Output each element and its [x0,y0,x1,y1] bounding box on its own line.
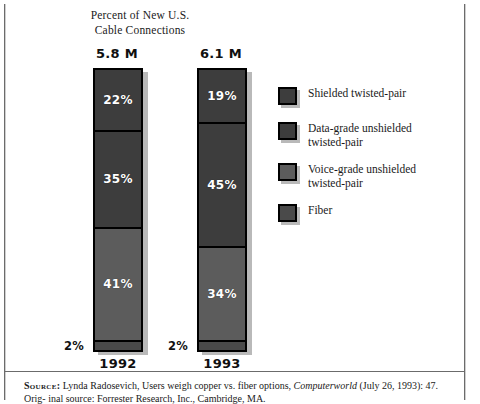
legend-label-line-2: twisted-pair [308,135,412,149]
legend-label-line-1: Voice-grade unshielded [308,163,416,175]
source-text-before: Lynda Radosevich, Users weigh copper vs.… [60,380,293,391]
segment-label: 22% [103,93,133,107]
segment-label: 45% [207,178,237,192]
page-rule-bottom [4,371,465,372]
legend-label: Fiber [304,203,332,217]
source-publication: Computerworld [294,380,357,391]
segment-data-grade-unshielded-1992[interactable]: 35% [95,130,141,227]
legend-label: Voice-grade unshielded twisted-pair [304,162,416,190]
chart-legend: Shielded twisted-pair Data-grade unshiel… [278,86,464,238]
source-note: Source: Lynda Radosevich, Users weigh co… [24,379,456,404]
legend-item-fiber[interactable]: Fiber [278,203,464,225]
segment-label: 19% [207,89,237,103]
segment-label-fiber: 2% [64,339,84,353]
bar-year-1993: 1993 [192,356,252,371]
segment-data-grade-unshielded-1993[interactable]: 45% [199,122,245,246]
segment-voice-grade-unshielded-1993[interactable]: 34% [199,246,245,340]
chart-title: Percent of New U.S. Cable Connections [6,8,274,38]
figure-page: Percent of New U.S. Cable Connections 5.… [0,0,480,404]
legend-item-shielded-twisted-pair[interactable]: Shielded twisted-pair [278,86,464,108]
legend-label: Data-grade unshielded twisted-pair [304,121,412,149]
page-rule-right [464,4,465,400]
stacked-bar-1992[interactable]: 22% 35% 41% 2% [93,68,143,352]
legend-swatch-icon [278,204,304,225]
chart-title-line-2: Cable Connections [6,23,274,38]
legend-swatch-icon [278,163,304,184]
legend-swatch-icon [278,87,304,108]
segment-label-fiber: 2% [168,339,188,353]
chart-figure: Percent of New U.S. Cable Connections 5.… [6,0,464,371]
source-label: Source: [24,380,60,391]
legend-swatch-icon [278,122,304,143]
legend-label-line-1: Data-grade unshielded [308,122,412,134]
bar-total-1992: 5.8 M [90,46,144,61]
segment-label: 35% [103,172,133,186]
legend-label-line-2: twisted-pair [308,176,416,190]
stacked-bar-1993[interactable]: 19% 45% 34% 2% [197,68,247,352]
segment-label: 41% [103,277,133,291]
segment-shielded-twisted-pair-1993[interactable]: 19% [199,70,245,122]
segment-label: 34% [207,287,237,301]
segment-shielded-twisted-pair-1992[interactable]: 22% [95,70,141,130]
legend-label: Shielded twisted-pair [304,86,406,100]
chart-title-line-1: Percent of New U.S. [91,9,190,21]
segment-fiber-1992[interactable]: 2% [95,340,141,350]
legend-item-voice-grade-unshielded[interactable]: Voice-grade unshielded twisted-pair [278,162,464,190]
legend-item-data-grade-unshielded[interactable]: Data-grade unshielded twisted-pair [278,121,464,149]
page-rule-left [4,4,5,400]
legend-label-line-1: Fiber [308,204,332,216]
bar-year-1992: 1992 [88,356,148,371]
legend-label-line-1: Shielded twisted-pair [308,87,406,99]
segment-fiber-1993[interactable]: 2% [199,340,245,350]
bar-total-1993: 6.1 M [194,46,248,61]
segment-voice-grade-unshielded-1992[interactable]: 41% [95,227,141,340]
source-line-2: inal source: Forrester Research, Inc., C… [48,393,265,404]
